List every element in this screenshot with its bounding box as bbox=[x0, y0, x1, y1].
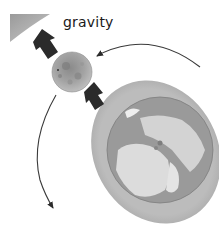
gravity-diagram: gravity bbox=[0, 0, 219, 233]
earth-icon bbox=[67, 58, 219, 233]
moon-icon bbox=[52, 52, 92, 92]
diagram-canvas bbox=[0, 0, 219, 233]
gravity-label: gravity bbox=[63, 14, 114, 30]
orbit-arrow-incoming-icon bbox=[97, 44, 200, 67]
gravity-arrow-sun-icon bbox=[33, 29, 58, 59]
orbit-arrow-outgoing-icon bbox=[37, 95, 56, 208]
gravity-arrow-earth-icon bbox=[84, 82, 104, 110]
